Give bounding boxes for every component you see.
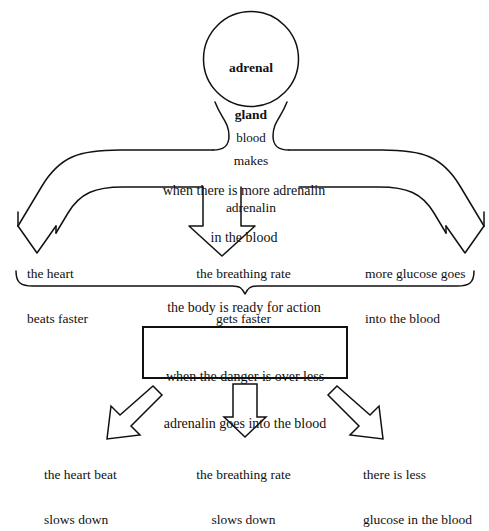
effect-decrease-glucose-line-2: glucose in the blood — [363, 512, 489, 527]
effect-increase-heart: the heart beats faster — [27, 236, 147, 356]
reverse-box-line-2: adrenalin goes into the blood — [146, 416, 344, 432]
effect-decrease-heart-line-2: slows down — [44, 512, 174, 527]
effect-decrease-breathing-line-2: slows down — [176, 512, 311, 527]
effect-increase-glucose-line-1: more glucose goes — [365, 266, 489, 281]
effect-decrease-heart-line-1: the heart beat — [44, 467, 174, 482]
reverse-box-line-1: when the danger is over less — [146, 369, 344, 385]
band-text-line-1: when there is more adrenalin — [129, 183, 359, 199]
effect-increase-glucose-line-2: into the blood — [365, 311, 489, 326]
gland-line-2: gland — [204, 107, 298, 123]
effect-increase-heart-line-1: the heart — [27, 266, 147, 281]
effect-decrease-glucose-line-1: there is less — [363, 467, 489, 482]
brace-summary-label: the body is ready for action — [129, 300, 359, 315]
effect-decrease-glucose: there is less glucose in the blood — [363, 437, 489, 531]
effect-decrease-breathing: the breathing rate slows down — [176, 437, 311, 531]
effect-decrease-heart: the heart beat slows down — [44, 437, 174, 531]
effect-decrease-breathing-line-1: the breathing rate — [176, 467, 311, 482]
effect-increase-glucose: more glucose goes into the blood — [365, 236, 489, 356]
effect-increase-breathing-line-1: the breathing rate — [176, 266, 311, 281]
blood-label: blood — [204, 130, 298, 145]
gland-line-1: adrenal — [204, 60, 298, 76]
